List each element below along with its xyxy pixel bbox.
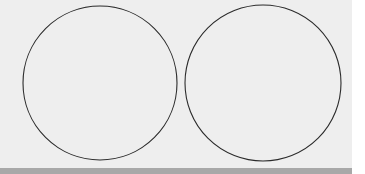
- bottom-bar: [0, 168, 352, 174]
- right-circle: [185, 5, 341, 161]
- left-circle: [23, 6, 177, 160]
- right-margin: [352, 0, 365, 174]
- two-circles-figure: [0, 0, 352, 168]
- figure-panel: [0, 0, 352, 168]
